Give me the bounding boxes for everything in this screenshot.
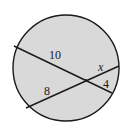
label-4: 4 — [103, 77, 109, 91]
diagram-canvas: 10 8 x 4 — [0, 0, 131, 132]
label-10: 10 — [49, 48, 61, 62]
intersection-point — [85, 79, 87, 81]
label-8: 8 — [44, 84, 50, 98]
label-x: x — [97, 60, 104, 74]
